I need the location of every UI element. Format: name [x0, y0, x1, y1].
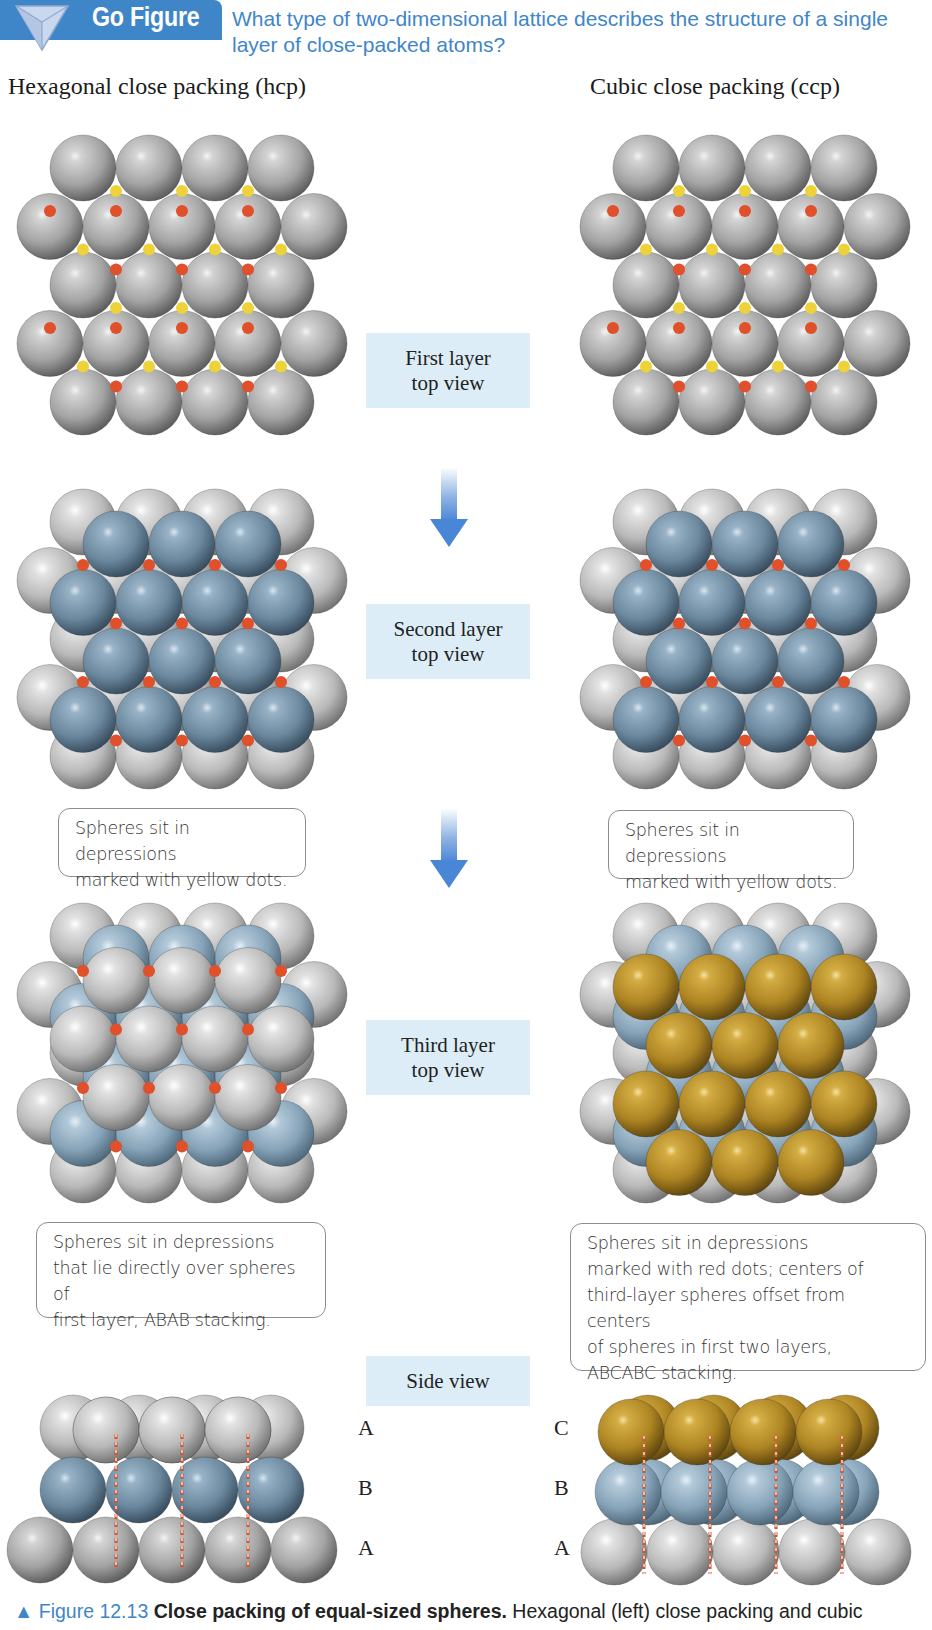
- red-dot: [209, 559, 221, 571]
- red-dot: [607, 322, 619, 334]
- blue-sphere: [83, 511, 149, 577]
- gray-sphere: [17, 194, 83, 260]
- gold-sphere: [679, 954, 745, 1020]
- red-dot: [110, 205, 122, 217]
- red-dot: [275, 1082, 287, 1094]
- gray-sphere: [139, 1517, 205, 1583]
- red-dot: [673, 205, 685, 217]
- red-dot: [673, 735, 685, 747]
- blue-sphere: [712, 628, 778, 694]
- blue-sphere: [83, 628, 149, 694]
- gold-sphere: [613, 1071, 679, 1137]
- red-dot: [242, 618, 254, 630]
- blue-sphere: [793, 1459, 859, 1525]
- red-dot: [838, 559, 850, 571]
- blue-sphere: [727, 1459, 793, 1525]
- red-dot: [706, 676, 718, 688]
- gray-sphere: [778, 311, 844, 377]
- gray-sphere: [613, 135, 679, 201]
- red-dot: [805, 381, 817, 393]
- red-dot: [110, 1141, 122, 1153]
- gray-sphere: [215, 948, 281, 1014]
- red-dot: [838, 676, 850, 688]
- blue-sphere: [679, 570, 745, 636]
- gray-sphere: [679, 135, 745, 201]
- gray-sphere: [83, 948, 149, 1014]
- gray-sphere: [745, 369, 811, 435]
- gray-sphere: [116, 252, 182, 318]
- red-dot: [110, 618, 122, 630]
- blue-sphere: [745, 570, 811, 636]
- red-dot: [739, 381, 751, 393]
- gray-sphere: [679, 252, 745, 318]
- gray-sphere: [215, 311, 281, 377]
- gray-sphere: [73, 1397, 139, 1463]
- gray-sphere: [778, 194, 844, 260]
- gray-sphere: [580, 311, 646, 377]
- yellow-dot: [739, 302, 751, 314]
- blue-sphere: [778, 628, 844, 694]
- red-dot: [673, 264, 685, 276]
- blue-sphere: [595, 1459, 661, 1525]
- red-dot: [242, 322, 254, 334]
- gold-sphere: [745, 1071, 811, 1137]
- blue-sphere: [646, 511, 712, 577]
- yellow-dot: [110, 302, 122, 314]
- gray-sphere: [116, 135, 182, 201]
- red-dot: [77, 676, 89, 688]
- gold-sphere: [730, 1399, 796, 1465]
- blue-sphere: [149, 511, 215, 577]
- blue-sphere: [215, 628, 281, 694]
- caption-figure-number: Figure 12.13: [39, 1600, 149, 1622]
- gray-sphere: [83, 1065, 149, 1131]
- gray-sphere: [7, 1517, 73, 1583]
- gray-sphere: [215, 194, 281, 260]
- red-dot: [143, 965, 155, 977]
- blue-sphere: [215, 511, 281, 577]
- red-dot: [805, 322, 817, 334]
- gray-sphere: [50, 369, 116, 435]
- red-dot: [772, 559, 784, 571]
- gray-sphere: [73, 1517, 139, 1583]
- gold-sphere: [712, 1130, 778, 1196]
- gold-sphere: [712, 1013, 778, 1079]
- red-dot: [110, 322, 122, 334]
- red-dot: [242, 735, 254, 747]
- gray-sphere: [281, 311, 347, 377]
- gray-sphere: [205, 1397, 271, 1463]
- gray-sphere: [811, 369, 877, 435]
- yellow-dot: [242, 302, 254, 314]
- gray-sphere: [613, 252, 679, 318]
- gold-sphere: [796, 1399, 862, 1465]
- close-packing-illustration: [0, 0, 932, 1630]
- yellow-dot: [640, 361, 652, 373]
- yellow-dot: [838, 361, 850, 373]
- gray-sphere: [149, 194, 215, 260]
- gray-sphere: [149, 1065, 215, 1131]
- gray-sphere: [581, 1519, 647, 1585]
- red-dot: [739, 264, 751, 276]
- red-dot: [176, 1024, 188, 1036]
- yellow-dot: [209, 244, 221, 256]
- blue-sphere: [182, 570, 248, 636]
- red-dot: [77, 965, 89, 977]
- gray-sphere: [50, 1006, 116, 1072]
- gray-sphere: [248, 135, 314, 201]
- red-dot: [805, 205, 817, 217]
- yellow-dot: [838, 244, 850, 256]
- blue-sphere: [811, 570, 877, 636]
- gold-sphere: [811, 1071, 877, 1137]
- yellow-dot: [110, 185, 122, 197]
- gray-sphere: [712, 311, 778, 377]
- red-dot: [176, 322, 188, 334]
- red-dot: [209, 1082, 221, 1094]
- gray-sphere: [83, 311, 149, 377]
- gray-sphere: [205, 1517, 271, 1583]
- caption-text: Hexagonal (left) close packing and cubic: [512, 1600, 862, 1622]
- red-dot: [143, 559, 155, 571]
- gold-sphere: [778, 1013, 844, 1079]
- gray-sphere: [779, 1519, 845, 1585]
- yellow-dot: [275, 244, 287, 256]
- gray-sphere: [248, 369, 314, 435]
- yellow-dot: [143, 244, 155, 256]
